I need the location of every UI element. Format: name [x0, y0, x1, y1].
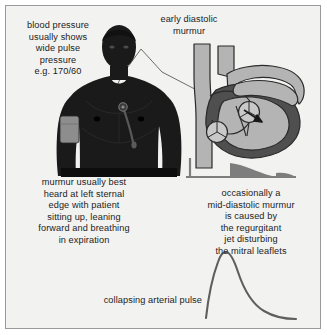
early-diastolic-decrescendo: [230, 163, 272, 177]
collapsing-pulse-waveform: [206, 252, 296, 319]
mitral-valve: [207, 122, 228, 143]
blood-pressure-cuff: [60, 116, 79, 143]
heart-cross-section-diagram: [194, 44, 304, 168]
stethoscope-earpiece: [131, 142, 136, 149]
late-low-intensity-component: [276, 173, 294, 177]
figure-container: blood pressure usually shows wide pulse …: [0, 0, 327, 335]
patient-torso-silhouette: [57, 25, 182, 177]
illustration-canvas: [0, 0, 327, 335]
pulse-curve: [206, 252, 296, 319]
